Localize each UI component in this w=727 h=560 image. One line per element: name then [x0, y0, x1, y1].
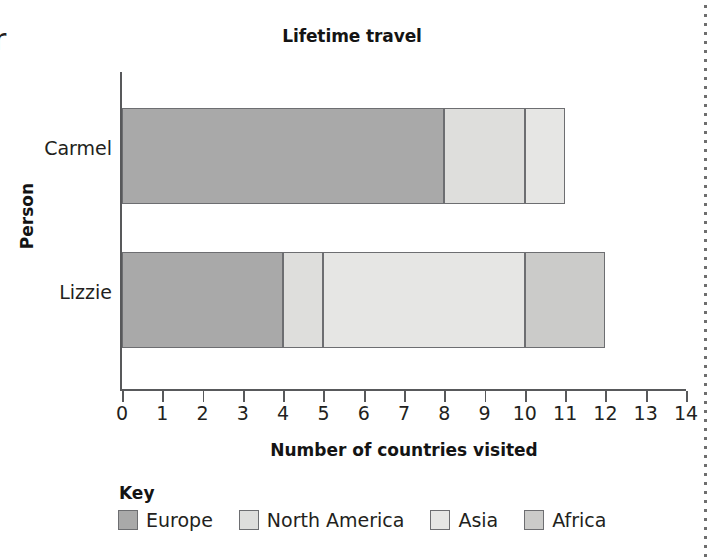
legend-item-africa: Africa: [524, 509, 606, 531]
bar-segment-carmel-north-america: [444, 108, 525, 204]
legend-label-africa: Africa: [552, 509, 606, 531]
legend-label-europe: Europe: [146, 509, 213, 531]
chart-title: Lifetime travel: [122, 26, 582, 46]
legend-swatch-africa: [524, 510, 544, 530]
bar-segment-carmel-asia: [525, 108, 565, 204]
bar-segment-lizzie-north-america: [283, 252, 323, 348]
bar-segment-lizzie-europe: [122, 252, 283, 348]
x-axis-tick-3: [243, 391, 245, 402]
x-axis-tick-13: [646, 391, 648, 402]
x-axis-tick-label-13: 13: [626, 402, 666, 424]
x-axis-tick-label-10: 10: [505, 402, 545, 424]
x-axis-tick-label-7: 7: [384, 402, 424, 424]
legend-title: Key: [119, 483, 632, 503]
x-axis-tick-8: [444, 391, 446, 402]
bar-segment-carmel-europe: [122, 108, 444, 204]
legend-swatch-north-america: [239, 510, 259, 530]
x-axis-tick-label-2: 2: [183, 402, 223, 424]
x-axis-tick-14: [686, 391, 688, 402]
legend-swatch-europe: [118, 510, 138, 530]
x-axis-tick-4: [283, 391, 285, 402]
dotted-divider-rule: [703, 0, 708, 560]
x-axis-tick-label-5: 5: [303, 402, 343, 424]
legend-label-asia: Asia: [458, 509, 498, 531]
x-axis-tick-10: [525, 391, 527, 402]
x-axis-title: Number of countries visited: [122, 440, 686, 460]
x-axis-tick-0: [122, 391, 124, 402]
stacked-bar-chart: Lifetime travel 01234567891011121314 Num…: [0, 0, 700, 560]
x-axis-tick-label-6: 6: [344, 402, 384, 424]
plot-area: [122, 72, 686, 390]
x-axis-tick-7: [404, 391, 406, 402]
legend-item-asia: Asia: [430, 509, 498, 531]
x-axis-tick-label-9: 9: [465, 402, 505, 424]
x-axis-tick-label-0: 0: [102, 402, 142, 424]
x-axis-tick-1: [162, 391, 164, 402]
legend-swatch-asia: [430, 510, 450, 530]
x-axis-tick-9: [485, 391, 487, 402]
x-axis-tick-label-14: 14: [666, 402, 706, 424]
x-axis-tick-label-12: 12: [585, 402, 625, 424]
x-axis-tick-label-3: 3: [223, 402, 263, 424]
x-axis-tick-11: [565, 391, 567, 402]
x-axis-tick-label-1: 1: [142, 402, 182, 424]
x-axis-tick-label-4: 4: [263, 402, 303, 424]
y-axis-label-lizzie: Lizzie: [2, 281, 112, 303]
legend-item-europe: Europe: [118, 509, 213, 531]
bar-segment-lizzie-asia: [323, 252, 524, 348]
legend-items: EuropeNorth AmericaAsiaAfrica: [118, 509, 632, 531]
x-axis-tick-2: [203, 391, 205, 402]
x-axis-tick-label-8: 8: [424, 402, 464, 424]
legend-label-north-america: North America: [267, 509, 405, 531]
chart-legend: Key EuropeNorth AmericaAsiaAfrica: [118, 483, 632, 531]
x-axis-tick-12: [605, 391, 607, 402]
y-axis-label-carmel: Carmel: [2, 137, 112, 159]
legend-item-north-america: North America: [239, 509, 405, 531]
x-axis-tick-6: [364, 391, 366, 402]
y-axis-title: Person: [17, 161, 37, 271]
bar-segment-lizzie-africa: [525, 252, 606, 348]
x-axis-tick-label-11: 11: [545, 402, 585, 424]
x-axis-tick-5: [323, 391, 325, 402]
